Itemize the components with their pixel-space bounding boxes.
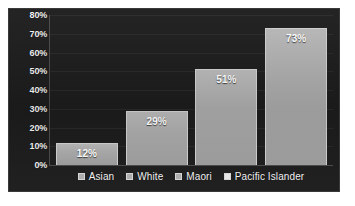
plot-area: 12%29%51%73% xyxy=(49,15,333,166)
legend-label: White xyxy=(137,171,163,182)
bar-pacific-islander[interactable]: 73% xyxy=(265,28,327,165)
legend-swatch-icon xyxy=(224,173,231,180)
bar-chart-figure: 0%10%20%30%40%50%60%70%80% 12%29%51%73% … xyxy=(8,8,340,192)
y-axis-tick-label: 80% xyxy=(30,10,47,20)
legend-item-asian[interactable]: Asian xyxy=(78,171,115,182)
legend-label: Pacific Islander xyxy=(235,171,304,182)
legend-label: Asian xyxy=(89,171,115,182)
bar-slot: 12% xyxy=(52,15,122,165)
legend-swatch-icon xyxy=(126,173,133,180)
legend-swatch-icon xyxy=(78,173,85,180)
y-axis-tick-label: 20% xyxy=(30,123,47,133)
chart-plot-wrapper: 0%10%20%30%40%50%60%70%80% 12%29%51%73% … xyxy=(9,9,339,191)
bar-series: 12%29%51%73% xyxy=(50,15,333,165)
bar-slot: 51% xyxy=(192,15,262,165)
y-axis-tick-label: 10% xyxy=(30,141,47,151)
bar-value-label: 12% xyxy=(57,148,117,159)
bar-slot: 73% xyxy=(261,15,331,165)
y-axis-tick-label: 40% xyxy=(30,85,47,95)
bar-value-label: 73% xyxy=(266,33,326,44)
y-axis-tick-label: 70% xyxy=(30,29,47,39)
legend-item-white[interactable]: White xyxy=(126,171,163,182)
bar-value-label: 29% xyxy=(127,116,187,127)
y-axis-tick-label: 0% xyxy=(34,160,47,170)
bar-maori[interactable]: 51% xyxy=(195,69,257,165)
bar-asian[interactable]: 12% xyxy=(56,143,118,166)
y-axis-tick-label: 60% xyxy=(30,48,47,58)
bar-white[interactable]: 29% xyxy=(126,111,188,165)
y-axis-tick-label: 30% xyxy=(30,104,47,114)
bar-slot: 29% xyxy=(122,15,192,165)
y-axis-tick-label: 50% xyxy=(30,66,47,76)
legend-label: Maori xyxy=(186,171,212,182)
legend-item-maori[interactable]: Maori xyxy=(175,171,212,182)
y-axis: 0%10%20%30%40%50%60%70%80% xyxy=(13,15,47,165)
bar-value-label: 51% xyxy=(196,74,256,85)
chart-legend: AsianWhiteMaoriPacific Islander xyxy=(49,167,333,185)
legend-item-pacific-islander[interactable]: Pacific Islander xyxy=(224,171,304,182)
legend-swatch-icon xyxy=(175,173,182,180)
